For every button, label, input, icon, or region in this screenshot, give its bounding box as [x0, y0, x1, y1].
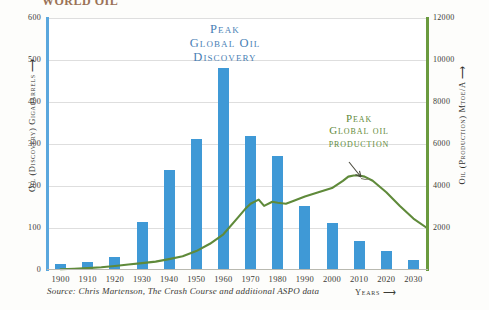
annotation-production-line1: Peak	[300, 112, 418, 124]
annotation-production-line2: Global oil	[300, 124, 418, 136]
right-tick-2000: 2000	[433, 223, 467, 232]
annotation-discovery-line2: Global Oil	[160, 36, 290, 50]
annotation-pointer-arrow-icon	[345, 160, 385, 186]
annotation-discovery-line1: Peak	[160, 22, 290, 36]
left-tick-0: 0	[15, 265, 41, 274]
x-tick-2030: 2030	[396, 274, 430, 284]
annotation-peak-discovery: Peak Global Oil Discovery	[160, 22, 290, 64]
left-axis-title: Oil (Discovery) Gigabarrels ⟶	[27, 35, 37, 215]
right-axis-spine	[426, 17, 429, 271]
left-axis-spine	[46, 17, 49, 271]
cropped-title: WORLD OIL	[42, 0, 222, 6]
world-oil-chart-figure: WORLD OIL 0100200300400500600 2000400060…	[0, 0, 489, 310]
annotation-production-line3: production	[300, 137, 418, 149]
left-tick-100: 100	[15, 223, 41, 232]
left-tick-600: 600	[15, 13, 41, 22]
bottom-axis-line	[47, 269, 428, 270]
right-axis-title: Oil (Production) Mtoe/A ⟶	[457, 35, 467, 215]
source-note: Source: Chris Martenson, The Crash Cours…	[47, 286, 319, 296]
annotation-peak-production: Peak Global oil production	[300, 112, 418, 149]
right-tick-12000: 12000	[433, 13, 467, 22]
years-axis-label: Years ⟶	[355, 287, 397, 297]
annotation-discovery-line3: Discovery	[160, 50, 290, 64]
